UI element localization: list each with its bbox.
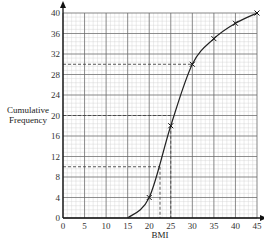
- x-tick-label: 5: [82, 221, 87, 231]
- x-tick-label: 0: [61, 221, 66, 231]
- x-tick-label: 15: [123, 221, 133, 231]
- x-tick-label: 30: [188, 221, 198, 231]
- y-axis-label-line2: Frequency: [9, 115, 47, 125]
- x-tick-label: 45: [253, 221, 263, 231]
- x-tick-label: 40: [231, 221, 241, 231]
- y-tick-label: 24: [51, 90, 61, 100]
- y-tick-label: 20: [51, 111, 61, 121]
- y-tick-label: 12: [51, 152, 60, 162]
- y-tick-label: 16: [51, 131, 61, 141]
- y-tick-label: 32: [51, 49, 60, 59]
- cumulative-frequency-chart: 0510152025303540450481216202428323640 BM…: [0, 0, 264, 240]
- x-axis-label: BMI: [151, 230, 168, 240]
- x-tick-label: 35: [209, 221, 219, 231]
- x-tick-label: 10: [102, 221, 112, 231]
- y-tick-label: 4: [56, 193, 61, 203]
- y-axis-label-line1: Cumulative: [7, 105, 49, 115]
- y-tick-label: 28: [51, 70, 61, 80]
- y-tick-label: 40: [51, 8, 61, 18]
- y-tick-label: 8: [56, 172, 61, 182]
- y-tick-label: 36: [51, 29, 61, 39]
- y-tick-label: 0: [56, 213, 61, 223]
- data-markers: [147, 11, 260, 201]
